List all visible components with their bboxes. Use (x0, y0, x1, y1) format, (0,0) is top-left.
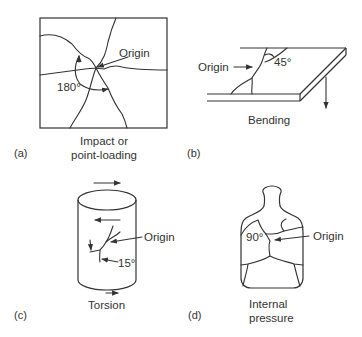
cylinder-bottom (78, 280, 136, 290)
crack-line (231, 48, 267, 94)
origin-label: Origin (144, 231, 175, 243)
crack-line (70, 18, 116, 128)
origin-arrow (275, 236, 309, 240)
angle-pointer (102, 259, 118, 262)
caption-line2: pressure (249, 312, 294, 324)
fracture-origin-diagram: Origin 180° Impact or point-loading (a) … (0, 0, 362, 337)
crack-line (96, 68, 127, 128)
origin-label: Origin (198, 61, 229, 73)
panel-letter: (d) (188, 309, 201, 321)
plate-edge (300, 48, 346, 94)
panel-a-impact: Origin 180° Impact or point-loading (a) (14, 18, 167, 161)
panel-d-pressure: Origin 90° Internal pressure (d) (188, 186, 344, 324)
panel-letter: (c) (14, 309, 27, 321)
caption-line1: Internal (249, 298, 287, 310)
origin-arrow (111, 237, 142, 242)
crack-line (40, 66, 167, 75)
angle-arc (265, 54, 274, 57)
angle-label: 45° (274, 56, 291, 68)
caption-line1: Bending (248, 114, 290, 126)
angle-label: 90° (246, 231, 263, 243)
panel-c-torsion: Origin 15° Torsion (c) (14, 183, 175, 321)
panel-b-bending: Origin 45° Bending (b) (187, 48, 346, 159)
caption-line1: Impact or (80, 135, 128, 147)
panel-letter: (a) (14, 147, 27, 159)
crack-line (270, 256, 303, 265)
origin-label: Origin (313, 230, 344, 242)
plate-edge (300, 55, 346, 101)
origin-label: Origin (119, 47, 150, 59)
crack-line (266, 227, 303, 234)
angle-label: 180° (57, 81, 81, 93)
crack-line (281, 219, 286, 231)
caption-line1: Torsion (88, 299, 125, 311)
panel-letter: (b) (187, 147, 200, 159)
crack-line (243, 264, 248, 286)
crack-line (252, 78, 253, 94)
crack-line (294, 264, 300, 286)
crack-line (40, 35, 96, 68)
cylinder-top (78, 190, 136, 210)
angle-arrow (90, 240, 91, 250)
caption-line2: point-loading (71, 149, 137, 161)
angle-label: 15° (118, 257, 135, 269)
